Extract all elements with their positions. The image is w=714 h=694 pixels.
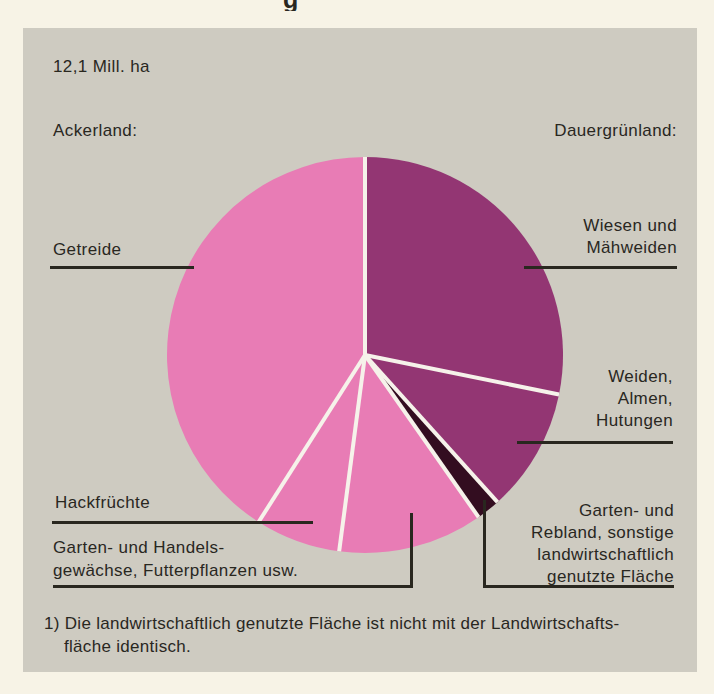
leader-wiesen-maehweiden — [524, 266, 677, 269]
label-hackfruechte: Hackfrüchte — [55, 492, 150, 514]
label-weiden-almen-hutungen: Weiden, Almen, Hutungen — [596, 366, 673, 432]
label-garten-rebland: Garten- und Rebland, sonstige landwirtsc… — [531, 500, 674, 588]
group-label-ackerland: Ackerland: — [53, 120, 137, 142]
label-garten-handelsgewaechse: Garten- und Handels- gewächse, Futterpfl… — [53, 537, 298, 582]
group-label-dauergruenland: Dauergrünland: — [554, 120, 677, 142]
footnote-line-1: 1) Die landwirtschaftlich genutzte Fläch… — [44, 614, 620, 634]
pie-chart — [155, 145, 575, 565]
leader-hackfruechte — [52, 521, 313, 524]
leader-garten-rebland-h — [483, 585, 674, 588]
footnote-line-2: fläche identisch. — [64, 637, 191, 657]
label-wiesen-maehweiden: Wiesen und Mähweiden — [583, 215, 677, 259]
leader-getreide — [50, 266, 194, 269]
partial-title-glyph: g — [283, 0, 315, 11]
pie-slice — [365, 157, 563, 394]
leader-garten-handelsgewaechse-v — [410, 513, 413, 587]
leader-weiden-almen-hutungen — [517, 441, 673, 444]
page-background: { "page": { "partial_title_glyph": "g" }… — [0, 0, 714, 694]
label-getreide: Getreide — [53, 239, 121, 261]
total-area-label: 12,1 Mill. ha — [53, 56, 150, 78]
leader-garten-rebland-v — [483, 500, 486, 587]
leader-garten-handelsgewaechse-h — [53, 585, 413, 588]
